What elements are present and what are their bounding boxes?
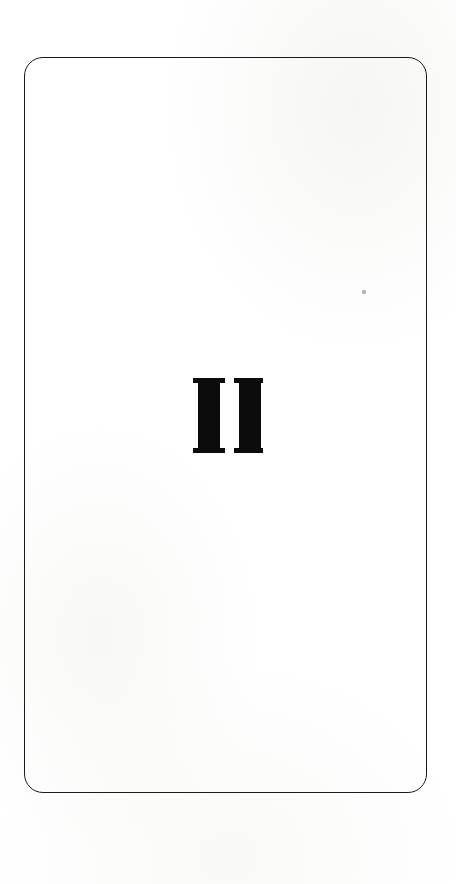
page-rule-box bbox=[24, 57, 427, 793]
scanned-page: II bbox=[0, 0, 456, 884]
